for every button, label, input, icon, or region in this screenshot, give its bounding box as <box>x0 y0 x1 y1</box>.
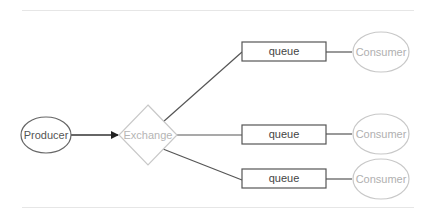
edge-exchange-queue-3 <box>163 149 242 180</box>
consumer-node-3[interactable]: Consumer <box>353 159 409 199</box>
consumer-node-1[interactable]: Consumer <box>353 32 409 72</box>
consumer-label-3: Consumer <box>356 173 407 185</box>
queue-label-3: queue <box>269 172 300 184</box>
queue-label-2: queue <box>269 128 300 140</box>
producer-node[interactable]: Producer <box>21 117 71 153</box>
exchange-label: Exchange <box>124 129 173 141</box>
producer-label: Producer <box>24 129 69 141</box>
diagram-canvas: Producer Exchange queue queue queue Cons… <box>0 0 433 216</box>
consumer-label-1: Consumer <box>356 46 407 58</box>
edge-exchange-queue-1 <box>163 52 242 122</box>
queue-node-3[interactable]: queue <box>242 169 326 188</box>
queue-label-1: queue <box>269 45 300 57</box>
consumer-label-2: Consumer <box>356 128 407 140</box>
queue-node-2[interactable]: queue <box>242 125 326 144</box>
queue-node-1[interactable]: queue <box>242 42 326 61</box>
consumer-node-2[interactable]: Consumer <box>353 114 409 154</box>
exchange-node[interactable]: Exchange <box>119 105 177 165</box>
